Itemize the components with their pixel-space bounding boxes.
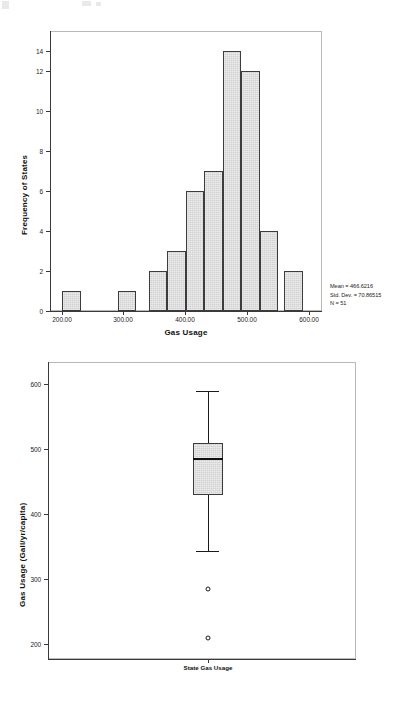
- histogram-x-axis-title: Gas Usage: [164, 328, 207, 337]
- boxplot-plot-frame: [48, 362, 356, 659]
- boxplot-upper-whisker: [208, 391, 209, 443]
- stats-n: N = 51: [330, 299, 381, 308]
- histogram-x-tick: [309, 311, 310, 315]
- histogram-x-tick-label: 400.00: [175, 316, 194, 323]
- histogram-y-tick: [46, 151, 50, 152]
- boxplot-lower-whisker-cap: [196, 551, 219, 552]
- boxplot-outlier: [206, 635, 211, 640]
- histogram-x-tick: [123, 311, 124, 315]
- histogram-bar: [284, 271, 303, 311]
- histogram-stats-annotation: Mean = 466.6216 Std. Dev. = 70.86515 N =…: [330, 282, 381, 308]
- histogram-y-tick-label: 2: [26, 268, 43, 275]
- boxplot-y-axis-title: Gas Usage (Gall/yr/capita): [18, 503, 27, 607]
- histogram-bar: [260, 231, 279, 311]
- histogram-y-tick-label: 10: [26, 108, 43, 115]
- histogram-y-tick: [46, 111, 50, 112]
- histogram-chart: 0 2 4 6 8 10 12 14 Frequency of States 2…: [0, 0, 407, 354]
- histogram-x-tick-label: 200.00: [52, 316, 71, 323]
- histogram-x-tick: [247, 311, 248, 315]
- histogram-bar: [118, 291, 137, 311]
- histogram-x-tick: [62, 311, 63, 315]
- histogram-y-tick: [46, 191, 50, 192]
- histogram-y-tick-label: 8: [26, 148, 43, 155]
- boxplot-y-tick: [44, 449, 48, 450]
- boxplot-box: [193, 443, 223, 495]
- boxplot-chart: 600 500 400 300 200 Gas Usage (Gall/yr/c…: [0, 354, 407, 708]
- histogram-y-tick: [46, 311, 50, 312]
- histogram-x-axis: [50, 311, 322, 312]
- boxplot-y-tick: [44, 644, 48, 645]
- boxplot-upper-whisker-cap: [196, 391, 219, 392]
- histogram-y-tick: [46, 51, 50, 52]
- boxplot-median-line: [193, 458, 223, 460]
- histogram-bar: [186, 191, 205, 311]
- histogram-y-axis-title: Frequency of States: [20, 155, 29, 235]
- histogram-y-tick: [46, 271, 50, 272]
- stats-mean: Mean = 466.6216: [330, 282, 381, 291]
- boxplot-y-tick-label: 500: [24, 446, 41, 453]
- histogram-y-axis: [50, 31, 51, 311]
- histogram-x-tick-label: 600.00: [299, 316, 318, 323]
- boxplot-category-label: State Gas Usage: [184, 664, 233, 671]
- boxplot-x-axis: [48, 659, 356, 660]
- histogram-bar: [204, 171, 223, 311]
- histogram-bar: [223, 51, 242, 311]
- histogram-x-tick-label: 500.00: [237, 316, 256, 323]
- boxplot-y-tick: [44, 384, 48, 385]
- histogram-y-tick: [46, 231, 50, 232]
- boxplot-y-axis: [48, 362, 49, 659]
- histogram-bar: [241, 71, 260, 311]
- histogram-x-tick: [185, 311, 186, 315]
- boxplot-y-tick-label: 600: [24, 381, 41, 388]
- histogram-y-tick-label: 0: [26, 308, 43, 315]
- histogram-bar: [149, 271, 168, 311]
- histogram-bar: [167, 251, 186, 311]
- histogram-x-tick-label: 300.00: [113, 316, 132, 323]
- boxplot-y-tick: [44, 579, 48, 580]
- histogram-y-tick-label: 12: [26, 68, 43, 75]
- boxplot-x-tick: [208, 659, 209, 663]
- stats-std-dev: Std. Dev. = 70.86515: [330, 291, 381, 300]
- histogram-y-tick: [46, 71, 50, 72]
- boxplot-lower-whisker: [208, 495, 209, 552]
- boxplot-outlier: [206, 586, 211, 591]
- boxplot-y-tick: [44, 514, 48, 515]
- histogram-y-tick-label: 14: [26, 48, 43, 55]
- histogram-bar: [62, 291, 81, 311]
- boxplot-y-tick-label: 200: [24, 641, 41, 648]
